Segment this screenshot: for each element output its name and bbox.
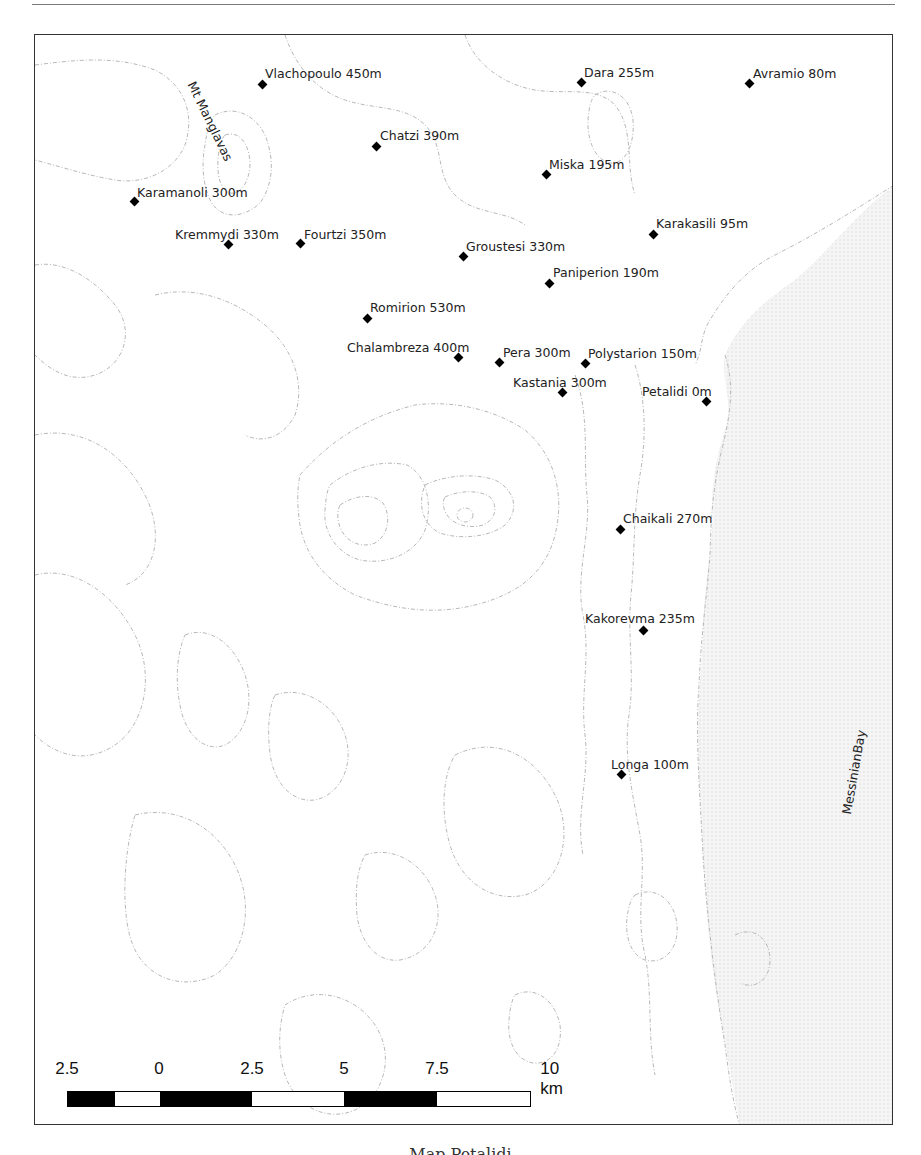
place-label: Miska 195m	[549, 157, 624, 172]
place-label: Paniperion 190m	[553, 265, 659, 280]
map-caption: Map Petalidi	[0, 1143, 921, 1155]
place-label: Groustesi 330m	[466, 239, 565, 254]
place-label: Karakasili 95m	[656, 216, 748, 231]
sea-area	[698, 185, 893, 1125]
scale-segment	[68, 1092, 115, 1106]
place-label: Kastania 300m	[513, 375, 607, 390]
place-label: Kremmydi 330m	[175, 227, 279, 242]
scale-segment	[160, 1092, 253, 1106]
place-label: Romirion 530m	[370, 300, 466, 315]
scale-label: 5	[339, 1059, 348, 1079]
scale-label: 2.5	[55, 1059, 79, 1079]
place-label: Vlachopoulo 450m	[265, 66, 382, 81]
scale-segment	[252, 1092, 344, 1106]
scale-label: 0	[154, 1059, 163, 1079]
scale-segment	[115, 1092, 160, 1106]
place-label: Fourtzi 350m	[304, 227, 386, 242]
header-rule	[32, 4, 895, 5]
place-label: Longa 100m	[611, 757, 689, 772]
map-frame[interactable]: Vlachopoulo 450mDara 255mAvramio 80mChat…	[34, 34, 893, 1125]
place-label: Kakorevma 235m	[585, 611, 695, 626]
scale-label: 2.5	[240, 1059, 264, 1079]
scale-label: 7.5	[425, 1059, 449, 1079]
place-label: Chaikali 270m	[623, 511, 712, 526]
scale-segment	[344, 1092, 438, 1106]
place-label: Polystarion 150m	[588, 346, 697, 361]
place-label: Avramio 80m	[753, 66, 836, 81]
place-label: Pera 300m	[503, 345, 571, 360]
scale-bar-track	[67, 1091, 531, 1107]
scale-label: 10 km	[540, 1059, 563, 1099]
place-label: Dara 255m	[584, 65, 654, 80]
place-label: Petalidi 0m	[642, 384, 712, 399]
place-label: Karamanoli 300m	[137, 185, 248, 200]
place-label: Chatzi 390m	[380, 128, 459, 143]
scale-segment	[437, 1092, 530, 1106]
place-label: Chalambreza 400m	[347, 340, 469, 355]
